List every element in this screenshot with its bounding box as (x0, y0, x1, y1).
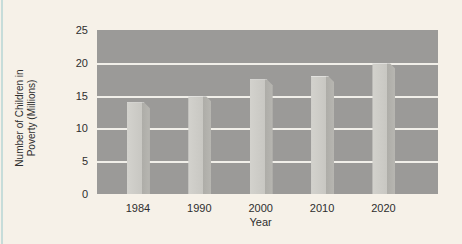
bar-2010 (311, 76, 334, 194)
bar-2000 (250, 79, 273, 194)
x-tick-label: 2000 (231, 202, 291, 214)
bar-2020 (372, 63, 395, 194)
x-tick-label: 2010 (292, 202, 352, 214)
page-edge-stripe (1, 0, 3, 244)
bar-1990 (188, 96, 211, 194)
x-tick-label: 2020 (353, 202, 413, 214)
chart-figure: Number of Children in Poverty (Millions)… (0, 0, 462, 244)
y-tick-label: 0 (56, 188, 88, 200)
plot-area (97, 30, 438, 194)
y-tick-label: 5 (56, 155, 88, 167)
y-tick-label: 25 (56, 24, 88, 36)
y-tick-label: 20 (56, 57, 88, 69)
x-tick-label: 1990 (169, 202, 229, 214)
y-tick-label: 15 (56, 90, 88, 102)
y-axis-label: Number of Children in Poverty (Millions) (14, 36, 40, 200)
y-axis-label-line1: Number of Children in (14, 69, 25, 166)
bar-1984 (127, 102, 150, 194)
y-tick-label: 10 (56, 122, 88, 134)
y-axis-label-line2: Poverty (Millions) (26, 80, 37, 157)
x-axis-title: Year (231, 216, 291, 228)
x-tick-label: 1984 (108, 202, 168, 214)
x-axis-ticks: Year 19841990200020102020 (97, 200, 438, 240)
